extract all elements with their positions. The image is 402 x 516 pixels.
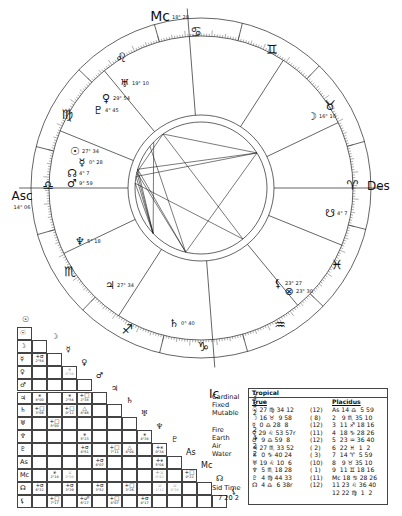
aspect-cell: ⚹8°00 (32, 392, 47, 405)
mercury-icon: ☿ (79, 156, 86, 169)
aspect-cell: +⚹5°04 (152, 456, 167, 469)
grid-row-head: ♂ (17, 379, 32, 392)
grid-cell (77, 417, 92, 430)
grid-row-head: ♅ (17, 417, 32, 430)
grid-row-head: ☉ (17, 327, 32, 340)
jupiter-icon: ♃ (105, 279, 115, 292)
venus-icon: ♀ (102, 92, 110, 105)
grid-cell (167, 456, 182, 469)
mars-icon: ♂ (67, 177, 77, 190)
mars-degree: 9° 59 (79, 180, 93, 186)
grid-cell (47, 353, 62, 366)
col-true: True (252, 398, 332, 406)
grid-cell (137, 482, 152, 495)
position-row: ♂ 9 ♎ 59 8(12)5 23 ♒ 36 40 (249, 436, 387, 444)
grid-cell (92, 443, 107, 456)
moon-degree: 16° 10 (319, 113, 336, 119)
virgo-sign-icon: ♍ (61, 107, 73, 122)
venus-degree: 29° 54 (113, 95, 130, 101)
grid-cell (32, 430, 47, 443)
grid-col-head: ☊ (216, 474, 223, 484)
aspect-cell: +□2°38 (77, 392, 92, 405)
aspect-cell: +□3°26 (122, 482, 137, 495)
positions-table: Tropical True Placidus ☉ 27 ♍ 34 12(12)A… (248, 388, 388, 505)
grid-col-head: ♇ (171, 435, 178, 445)
aspect-cell: +□7°17 (47, 495, 62, 508)
grid-cell (47, 379, 62, 392)
asc-degree: 14° 06 (14, 204, 31, 210)
south-node-degree: 4° 7 (337, 210, 347, 216)
pluto-icon: ♇ (93, 104, 103, 117)
grid-cell (107, 430, 122, 443)
grid-cell (62, 379, 77, 392)
grid-col-head: ☉ (22, 315, 29, 325)
grid-cell (47, 392, 62, 405)
mc-label: Mc (150, 8, 170, 24)
position-row: ☿ 0 ♎ 28 8(12)3 11 ♐ 18 16 (249, 421, 387, 429)
grid-row-head: Mc (17, 469, 32, 482)
grid-col-head: ♂ (96, 371, 103, 381)
aspect-cell: +σ2°54 (32, 353, 47, 366)
mercury-degree: 0° 28 (89, 159, 103, 165)
grid-cell (107, 417, 122, 430)
grid-col-head: ♀ (81, 358, 87, 368)
grid-cell (62, 443, 77, 456)
grid-cell (77, 379, 92, 392)
grid-cell (167, 469, 182, 482)
grid-row-head: ☽ (17, 340, 32, 353)
grid-cell (32, 495, 47, 508)
grid-cell (77, 456, 92, 469)
leo-sign-icon: ♌ (115, 50, 127, 65)
aspect-cell: +σ3°39 (62, 482, 77, 495)
neptune-degree: 5° 18 (87, 238, 101, 244)
fortune-degree: 23° 30 (296, 288, 313, 294)
grid-cell (47, 482, 62, 495)
grid-cell (92, 404, 107, 417)
asc-label: Asc (11, 189, 32, 203)
grid-cell (47, 456, 62, 469)
grid-col-head: ♃ (111, 384, 118, 394)
grid-col-head: ♆ (156, 422, 163, 432)
grid-row-head: ⚸ (17, 495, 32, 508)
grid-cell (137, 443, 152, 456)
grid-row-head: ♇ (17, 443, 32, 456)
col-placidus: Placidus (332, 398, 361, 406)
grid-cell (122, 417, 137, 430)
grid-cell (182, 495, 197, 508)
position-row: ♄ 0 ♑ 40 24( 3)7 14 ♈ 5 59 (249, 451, 387, 459)
south-node-icon: ☋ (325, 207, 335, 220)
libra-sign-icon: ♎ (42, 178, 54, 193)
aspect-cell: +□4°07 (107, 495, 122, 508)
aspect-cell: +□3°06 (32, 404, 47, 417)
aspect-cell: +⚺0°42 (152, 469, 167, 482)
grid-col-head: ☽ (51, 332, 58, 342)
grid-row-head: ☿ (17, 353, 32, 366)
grid-cell (77, 469, 92, 482)
moon-icon: ☽ (307, 110, 317, 123)
grid-cell (107, 456, 122, 469)
gemini-sign-icon: ♊ (266, 42, 278, 57)
aspect-cell: ⚺0°38 (167, 482, 182, 495)
aspect-cell: ⚹4°38 (137, 430, 152, 443)
grid-row-head: ♀ (17, 366, 32, 379)
sun-degree: 27° 34 (82, 148, 99, 154)
grid-col-head: Mc (201, 461, 212, 471)
grid-cell (47, 404, 62, 417)
grid-row-head: ♃ (17, 392, 32, 405)
north-node-degree: 4° 7 (79, 170, 89, 176)
grid-cell (137, 456, 152, 469)
grid-cell (122, 430, 137, 443)
grid-cell (32, 379, 47, 392)
grid-cell (122, 495, 137, 508)
grid-cell (62, 456, 77, 469)
grid-cell (32, 340, 47, 353)
aries-sign-icon: ♈ (346, 178, 358, 193)
aspect-cell: ⚺0°08 (62, 469, 77, 482)
grid-cell (92, 392, 107, 405)
position-row: ♅ 19 ♌ 10 6(10)8 9 ♉ 35 10 (249, 459, 387, 467)
grid-cell (122, 469, 137, 482)
des-label: Des (367, 179, 390, 193)
grid-col-head: ♄ (126, 396, 133, 406)
position-row: ♃ 27 ♏ 33 52( 2)6 22 ♓ 1 2 (249, 444, 387, 452)
fortune-icon: ⊗ (284, 285, 293, 298)
